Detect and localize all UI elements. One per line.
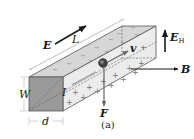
svg-text:+: + [94,87,101,96]
svg-text:−: − [52,66,58,74]
label-L: L [72,34,79,45]
label-E-H: EH [170,32,185,45]
svg-text:+: + [100,77,107,86]
svg-text:−: − [72,66,78,74]
svg-text:+: + [86,83,93,92]
label-v-plus: + [140,44,147,52]
diagram-graphics: − − − − − − − − − − − − + + + + + + + + … [0,0,194,139]
svg-text:+: + [112,71,119,80]
svg-text:−: − [116,30,122,38]
label-F: F [100,108,108,119]
svg-text:+: + [108,81,115,90]
svg-text:−: − [94,44,100,52]
label-d: d [42,116,49,127]
svg-text:−: − [130,24,136,32]
svg-text:−: − [80,52,86,60]
label-I: I [62,87,66,98]
svg-text:−: − [88,57,94,65]
svg-text:+: + [120,75,127,84]
figure-caption: (a) [101,120,115,130]
svg-text:+: + [72,88,79,97]
svg-text:−: − [134,31,140,39]
hall-effect-diagram: − − − − − − − − − − − − + + + + + + + + … [0,0,194,139]
svg-text:−: − [104,48,110,56]
electric-field-arrow [55,26,86,44]
svg-text:−: − [120,39,126,47]
label-v: v [130,43,136,54]
svg-text:−: − [108,36,114,44]
label-B: B [181,64,190,75]
svg-text:+: + [138,59,145,68]
svg-text:+: + [66,98,73,107]
label-E: E [43,40,51,51]
label-W: W [19,89,30,100]
svg-text:+: + [80,93,87,102]
